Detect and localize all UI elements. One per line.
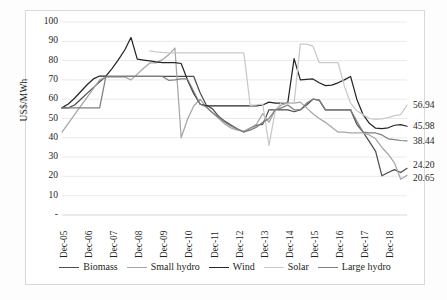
end-value-label: 24.20 [413,160,434,170]
end-value-label: 56.94 [413,100,434,110]
end-value-label: 38.44 [413,136,434,146]
legend-item[interactable]: Solar [264,262,309,272]
legend-swatch-icon [209,267,229,268]
legend-label: Small hydro [151,262,200,272]
legend-swatch-icon [127,267,147,268]
legend-item[interactable]: Biomass [59,262,117,272]
chart-figure: US$/MWh 100908070605040302010- Dec-05Dec… [0,0,447,300]
legend-label: Biomass [83,262,117,272]
legend-swatch-icon [318,267,338,268]
legend-item[interactable]: Wind [209,262,255,272]
legend-swatch-icon [59,267,79,268]
end-value-labels: 56.9445.9838.4424.2020.65 [0,0,447,300]
legend-item[interactable]: Large hydro [318,262,391,272]
legend-label: Large hydro [342,262,391,272]
legend-label: Wind [233,262,255,272]
end-value-label: 45.98 [413,121,434,131]
legend: BiomassSmall hydroWindSolarLarge hydro [25,262,425,272]
end-value-label: 20.65 [413,173,434,183]
legend-label: Solar [288,262,309,272]
legend-item[interactable]: Small hydro [127,262,200,272]
legend-swatch-icon [264,267,284,268]
